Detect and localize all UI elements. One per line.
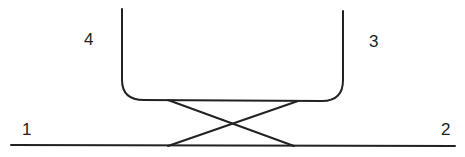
label-3: 3	[369, 32, 378, 51]
label-2: 2	[441, 120, 450, 139]
baseline	[11, 145, 455, 146]
label-4: 4	[84, 30, 93, 49]
label-1: 1	[22, 120, 31, 139]
diagram-canvas: 1 2 3 4	[0, 0, 465, 157]
vessel-outline	[122, 9, 343, 101]
